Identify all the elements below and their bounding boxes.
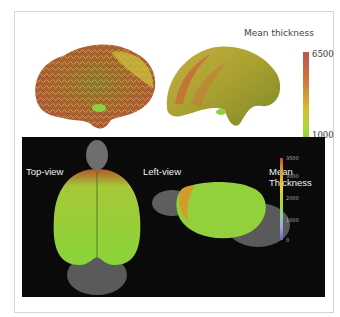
top-figure: Mean thickness 6500 1000 xyxy=(15,12,333,134)
colorbar-tick: 3500 xyxy=(286,155,299,161)
colorbar-tick: 1000 xyxy=(286,217,299,223)
colorbar-tick: 2000 xyxy=(286,195,299,201)
figure-frame: Mean thickness 6500 1000 Top-view Left-v… xyxy=(14,11,334,313)
colorbar-tick: 0 xyxy=(286,237,289,243)
bottom-figure-panel: Top-view Left-view Mean Thickness 3500 3… xyxy=(22,137,325,297)
top-view-label: Top-view xyxy=(26,166,64,177)
colorbar xyxy=(280,158,283,240)
left-view-label: Left-view xyxy=(143,166,181,177)
colorbar-title: Mean thickness xyxy=(244,28,314,38)
colorbar-tick: 3000 xyxy=(286,173,299,179)
colorbar-max: 6500 xyxy=(312,49,334,59)
colorbar xyxy=(303,52,309,138)
